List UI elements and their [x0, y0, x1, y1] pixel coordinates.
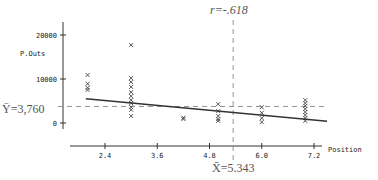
y-axis-title: P.Outs: [20, 50, 45, 58]
axes: [63, 22, 322, 146]
x-tick-label: 7.2: [308, 152, 321, 160]
data-point: [260, 120, 264, 124]
data-point: [129, 90, 133, 94]
data-point: [129, 94, 133, 98]
mean-y-label: Ȳ=3,760: [2, 102, 44, 116]
data-point: [216, 102, 220, 106]
scatter-chart: 01000020000 2.43.64.86.07.2 P.Outs Posit…: [0, 0, 378, 180]
data-point: [129, 114, 133, 118]
data-point: [129, 108, 133, 112]
data-point: [260, 111, 264, 115]
reference-lines: [58, 20, 326, 160]
x-tick-label: 4.8: [203, 152, 216, 160]
regression-line: [86, 99, 327, 121]
x-axis-title: Position: [328, 146, 362, 154]
y-tick-label: 0: [53, 120, 57, 128]
x-tick-label: 6.0: [255, 152, 268, 160]
data-point: [129, 76, 133, 80]
data-point: [260, 105, 264, 109]
data-point: [129, 85, 133, 89]
y-tick-label: 10000: [36, 76, 57, 84]
data-point: [129, 43, 133, 47]
x-tick-label: 2.4: [99, 152, 112, 160]
data-point: [86, 82, 90, 86]
y-tick-label: 20000: [36, 32, 57, 40]
data-point: [129, 80, 133, 84]
data-point: [86, 73, 90, 77]
data-point: [86, 88, 90, 92]
x-tick-label: 3.6: [151, 152, 164, 160]
mean-x-label: X̄=5.343: [212, 161, 254, 175]
data-points: [86, 43, 308, 124]
data-point: [260, 116, 264, 120]
correlation-label: r=-.618: [210, 3, 248, 17]
